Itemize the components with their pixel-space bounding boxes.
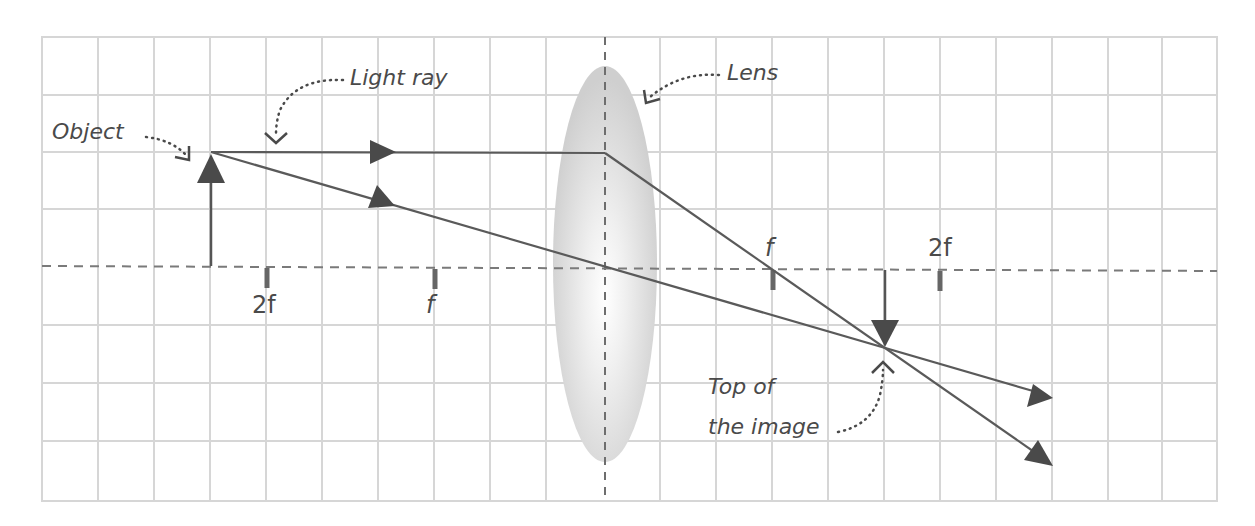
image-pointer xyxy=(838,370,883,432)
tick-label-2f-right: 2f xyxy=(928,234,952,262)
ray-arrowhead-icon xyxy=(1024,440,1053,466)
ray-arrowhead-icon xyxy=(1027,384,1053,407)
lens-ray-diagram: 2f f f 2f Object Light ray Lens Top of t… xyxy=(0,0,1255,526)
image-label-line2: the image xyxy=(708,414,820,439)
tick-label-2f-left: 2f xyxy=(252,291,276,319)
ray-arrowhead-icon xyxy=(370,140,396,164)
light-ray-pointer xyxy=(276,80,343,134)
object-arrowhead-icon xyxy=(197,154,225,183)
lens-label: Lens xyxy=(727,60,778,85)
image-label-line1: Top of xyxy=(708,374,778,399)
light-ray-label: Light ray xyxy=(350,65,448,90)
object-label: Object xyxy=(52,119,125,144)
image-arrowhead-icon xyxy=(871,320,899,347)
image-arrow xyxy=(871,270,899,347)
light-ray-pointer-arrowhead-icon xyxy=(265,133,287,143)
ray-arrowhead-icon xyxy=(368,185,395,208)
tick-label-f-right: f xyxy=(765,234,777,262)
tick-label-f-left: f xyxy=(426,291,438,319)
